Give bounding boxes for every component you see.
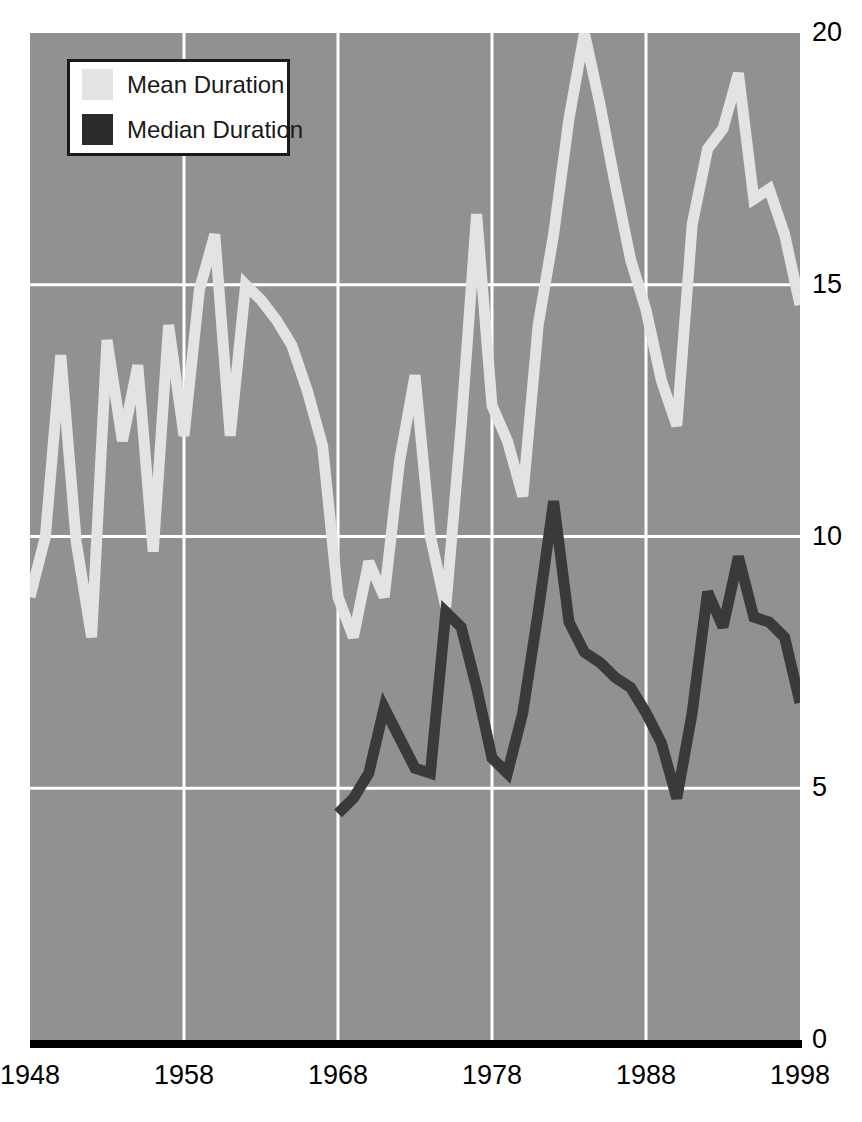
y-tick-label: 0: [812, 1026, 827, 1053]
x-axis-line: [30, 1040, 802, 1048]
chart-legend: Mean Duration Median Duration: [67, 59, 290, 156]
legend-swatch-icon-median: [82, 114, 113, 145]
y-tick-label: 5: [812, 774, 827, 801]
y-tick-label: 15: [812, 271, 842, 298]
series-lines: [30, 33, 800, 1040]
x-tick-label: 1998: [760, 1062, 840, 1089]
legend-item-mean-duration: Mean Duration: [70, 62, 287, 107]
plot-area: [30, 33, 800, 1040]
x-tick-label: 1948: [0, 1062, 70, 1089]
x-tick-label: 1968: [298, 1062, 378, 1089]
series-line-median-duration: [338, 501, 800, 813]
legend-swatch-icon-mean: [82, 69, 113, 100]
legend-label-mean: Mean Duration: [127, 71, 284, 99]
chart-figure: 05101520 194819581968197819881998 Mean D…: [0, 0, 862, 1122]
legend-label-median: Median Duration: [127, 116, 303, 144]
y-tick-label: 10: [812, 523, 842, 550]
legend-item-median-duration: Median Duration: [70, 107, 287, 152]
x-tick-label: 1988: [606, 1062, 686, 1089]
y-tick-label: 20: [812, 19, 842, 46]
x-tick-label: 1978: [452, 1062, 532, 1089]
x-tick-label: 1958: [144, 1062, 224, 1089]
